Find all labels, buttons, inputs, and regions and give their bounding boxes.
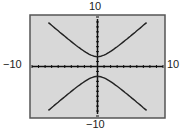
x-min-label: −10 xyxy=(3,58,22,70)
x-max-label: 10 xyxy=(167,58,179,70)
y-max-label: 10 xyxy=(89,0,101,12)
y-min-label: −10 xyxy=(86,118,105,130)
graph-screen xyxy=(0,0,182,131)
